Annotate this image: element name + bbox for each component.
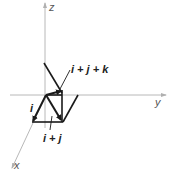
leader-i-plus-j-plus-k (60, 70, 70, 89)
axes (10, 3, 166, 168)
y-axis-label: y (155, 97, 161, 108)
x-axis-label: x (14, 160, 20, 171)
vector-i-plus-j-plus-k-label: i + j + k (71, 64, 108, 75)
diagram-svg (0, 0, 171, 176)
vector-i-plus-j-arrow (46, 95, 61, 120)
parallelogram-right-edge (63, 95, 78, 122)
vector-diagram: z y x i i + j i + j + k (0, 0, 171, 176)
diagonal-upper-line (44, 63, 62, 93)
vector-i-plus-j-label: i + j (43, 133, 62, 144)
leader-i-plus-j (50, 116, 52, 130)
vector-i-arrow (33, 95, 46, 121)
vector-i-label: i (30, 103, 33, 114)
z-axis-label: z (49, 2, 55, 13)
